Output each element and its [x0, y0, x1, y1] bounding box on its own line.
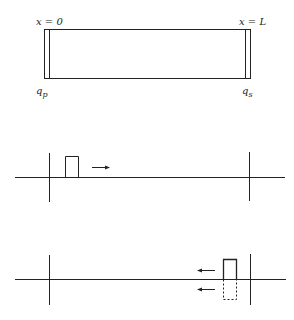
- arrow-right-icon: [92, 166, 110, 170]
- reflected-pulse-positive: [224, 260, 237, 280]
- left-flux-label: qp: [36, 85, 48, 99]
- rod-schematic: [45, 30, 251, 79]
- arrow-left-icon: [197, 288, 215, 292]
- right-position-label: x = L: [239, 16, 266, 27]
- incident-pulse-panel: [15, 152, 285, 202]
- wave-diagram: x = 0 x = L qp qs: [0, 0, 294, 320]
- right-flux-label: qs: [242, 85, 253, 99]
- reflected-pulse-panel: [15, 254, 286, 305]
- reflected-pulse-inverted-dashed: [224, 280, 237, 300]
- incident-pulse: [66, 157, 79, 178]
- arrow-left-icon: [197, 269, 215, 273]
- rod-body: [45, 30, 251, 79]
- left-position-label: x = 0: [36, 16, 63, 27]
